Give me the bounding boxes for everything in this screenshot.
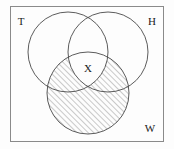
set-label-t: T [18,15,25,27]
venn-diagram-figure: T H W X [0,0,174,149]
venn-diagram-canvas: T H W X [0,0,174,149]
set-label-h: H [148,15,156,27]
set-label-w: W [145,122,156,134]
region-label-x: X [84,62,92,74]
